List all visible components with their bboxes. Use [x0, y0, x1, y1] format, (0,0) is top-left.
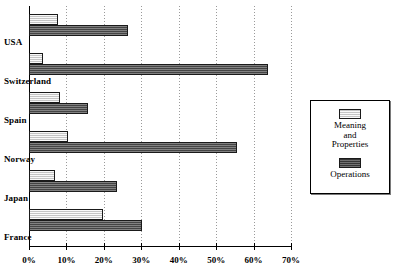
x-tick-30%: [141, 243, 142, 250]
bar-japan-meaning-and-properties: [29, 170, 55, 181]
bar-usa-operations: [29, 25, 128, 36]
plot-area: USASwitzerlandSpainNorwayJapanFrance: [29, 6, 291, 246]
bar-group-france: France: [29, 209, 291, 243]
category-label-switzerland: Switzerland: [4, 76, 51, 86]
chart-legend: Meaning and Properties Operations: [310, 100, 390, 194]
category-label-spain: Spain: [4, 115, 27, 125]
x-tick-10%: [66, 243, 67, 250]
x-tick-70%: [291, 243, 292, 250]
legend-label-operations: Operations: [311, 170, 389, 180]
category-label-japan: Japan: [4, 193, 28, 203]
bar-group-spain: Spain: [29, 92, 291, 126]
bar-japan-operations: [29, 181, 117, 192]
x-tick-40%: [179, 243, 180, 250]
x-tick-label: 30%: [132, 255, 150, 265]
x-tick-label: 20%: [95, 255, 113, 265]
bar-switzerland-operations: [29, 64, 268, 75]
bar-switzerland-meaning-and-properties: [29, 53, 43, 64]
category-label-france: France: [4, 232, 32, 242]
legend-entry-meaning-and-properties: Meaning and Properties: [311, 109, 389, 150]
bar-norway-operations: [29, 142, 237, 153]
bar-group-usa: USA: [29, 14, 291, 48]
x-tick-60%: [254, 243, 255, 250]
bar-france-meaning-and-properties: [29, 209, 103, 220]
x-tick-label: 40%: [170, 255, 188, 265]
category-label-usa: USA: [4, 37, 22, 47]
legend-entry-operations: Operations: [311, 158, 389, 180]
legend-label-line3: Properties: [311, 140, 389, 150]
bar-spain-meaning-and-properties: [29, 92, 60, 103]
bar-spain-operations: [29, 103, 88, 114]
x-tick-20%: [104, 243, 105, 250]
legend-swatch-dark: [339, 158, 361, 168]
bar-usa-meaning-and-properties: [29, 14, 58, 25]
bar-group-switzerland: Switzerland: [29, 53, 291, 87]
bar-france-operations: [29, 220, 142, 231]
x-tick-50%: [216, 243, 217, 250]
x-tick-label: 0%: [22, 255, 36, 265]
category-label-norway: Norway: [4, 154, 35, 164]
bar-group-japan: Japan: [29, 170, 291, 204]
legend-swatch-light: [339, 109, 361, 119]
bar-norway-meaning-and-properties: [29, 131, 68, 142]
x-tick-label: 60%: [245, 255, 263, 265]
bar-group-norway: Norway: [29, 131, 291, 165]
x-tick-label: 50%: [207, 255, 225, 265]
bar-chart: USASwitzerlandSpainNorwayJapanFrance Mea…: [0, 0, 399, 276]
x-tick-label: 70%: [282, 255, 300, 265]
x-tick-0%: [29, 243, 30, 250]
x-tick-label: 10%: [57, 255, 75, 265]
gridline-70%: [291, 6, 292, 246]
x-axis: [29, 246, 291, 247]
